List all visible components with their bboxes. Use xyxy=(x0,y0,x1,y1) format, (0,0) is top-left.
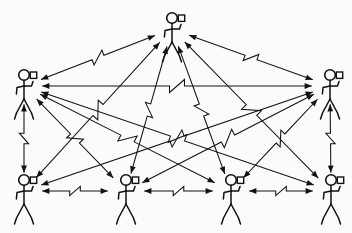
wireless-link xyxy=(130,47,168,174)
link-arrowhead xyxy=(178,46,183,54)
wireless-link xyxy=(189,35,313,80)
diagram-canvas xyxy=(0,0,352,233)
figure-device-arm xyxy=(24,187,33,192)
handheld-radio-icon xyxy=(30,177,36,183)
figure-left-arm xyxy=(164,29,172,37)
figure-head-icon xyxy=(19,70,30,81)
figure-device-arm xyxy=(330,82,339,87)
link-arrowhead xyxy=(327,104,333,111)
network-node xyxy=(15,175,37,224)
handheld-radio-icon xyxy=(336,72,342,78)
link-arrowhead xyxy=(189,35,197,40)
link-zigzag-line xyxy=(42,186,108,195)
figure-left-arm xyxy=(16,86,24,94)
link-zigzag-line xyxy=(19,104,28,173)
figure-left-leg xyxy=(15,204,25,224)
figure-head-icon xyxy=(121,175,132,186)
link-arrowhead xyxy=(41,180,49,185)
figure-left-leg xyxy=(117,204,127,224)
link-zigzag-line xyxy=(326,104,335,173)
figure-device-arm xyxy=(126,187,135,192)
figure-right-leg xyxy=(24,204,34,224)
link-zigzag-line xyxy=(36,42,159,177)
link-arrowhead xyxy=(220,166,225,174)
link-zigzag-line xyxy=(41,36,155,80)
link-arrowhead xyxy=(147,35,155,40)
network-node xyxy=(117,175,139,224)
network-node xyxy=(322,175,344,224)
figure-head-icon xyxy=(226,175,237,186)
handheld-radio-icon xyxy=(178,15,184,21)
network-node xyxy=(321,70,343,119)
link-arrowhead xyxy=(142,177,150,183)
link-arrowhead xyxy=(42,83,49,89)
figure-device-arm xyxy=(331,187,340,192)
wireless-link xyxy=(178,46,225,174)
link-zigzag-line xyxy=(185,42,319,178)
wireless-link xyxy=(19,104,28,173)
link-zigzag-line xyxy=(249,186,313,195)
wireless-link xyxy=(144,186,213,195)
link-zigzag-line xyxy=(144,186,213,195)
wireless-link xyxy=(40,94,215,183)
link-arrowhead xyxy=(130,166,136,174)
handheld-radio-icon xyxy=(132,177,138,183)
wireless-link xyxy=(36,42,159,177)
handheld-radio-icon xyxy=(30,72,36,78)
wireless-links-layer xyxy=(19,35,335,196)
link-arrowhead xyxy=(305,83,312,89)
figure-left-arm xyxy=(118,191,126,199)
link-arrowhead xyxy=(40,94,48,100)
figure-right-leg xyxy=(331,204,341,224)
wireless-link xyxy=(185,42,319,178)
figure-right-leg xyxy=(126,204,136,224)
network-node xyxy=(15,70,37,119)
link-arrowhead xyxy=(306,188,313,194)
link-zigzag-line xyxy=(37,99,114,178)
link-arrowhead xyxy=(206,188,213,194)
link-arrowhead xyxy=(41,74,49,79)
link-arrowhead xyxy=(21,166,27,173)
network-nodes-layer xyxy=(15,13,344,224)
link-arrowhead xyxy=(328,166,334,173)
wireless-link xyxy=(42,186,108,195)
link-arrowhead xyxy=(306,180,314,185)
figure-device-arm xyxy=(172,25,181,30)
link-arrowhead xyxy=(21,104,27,111)
link-arrowhead xyxy=(249,188,256,194)
link-zigzag-line xyxy=(142,94,314,182)
figure-head-icon xyxy=(326,175,337,186)
network-node xyxy=(222,175,244,224)
link-zigzag-line xyxy=(42,80,312,93)
figure-left-arm xyxy=(16,191,24,199)
figure-right-leg xyxy=(231,204,241,224)
link-arrowhead xyxy=(42,188,49,194)
figure-left-arm xyxy=(323,191,331,199)
figure-head-icon xyxy=(19,175,30,186)
figure-head-icon xyxy=(325,70,336,81)
handheld-radio-icon xyxy=(237,177,243,183)
link-zigzag-line xyxy=(40,94,215,183)
link-arrowhead xyxy=(305,75,313,80)
link-arrowhead xyxy=(207,177,215,183)
figure-head-icon xyxy=(167,13,178,24)
link-arrowhead xyxy=(144,188,151,194)
figure-left-leg xyxy=(222,204,232,224)
wireless-link xyxy=(37,99,114,178)
figure-left-arm xyxy=(223,191,231,199)
wireless-link xyxy=(249,186,313,195)
figure-left-leg xyxy=(322,204,332,224)
figure-device-arm xyxy=(24,82,33,87)
link-arrowhead xyxy=(101,188,108,194)
figure-device-arm xyxy=(231,187,240,192)
network-diagram-svg xyxy=(0,0,352,233)
wireless-link xyxy=(142,94,314,182)
link-arrowhead xyxy=(306,94,314,100)
wireless-link xyxy=(41,35,155,79)
link-zigzag-line xyxy=(189,35,313,80)
handheld-radio-icon xyxy=(337,177,343,183)
link-zigzag-line xyxy=(131,47,167,174)
figure-left-arm xyxy=(322,86,330,94)
wireless-link xyxy=(42,80,312,93)
link-zigzag-line xyxy=(178,46,225,174)
